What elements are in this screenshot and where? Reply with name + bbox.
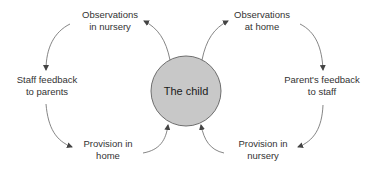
arrow-prov-nursery-to-child bbox=[201, 125, 224, 153]
child-cycle-diagram: The child Observations in nursery Observ… bbox=[0, 0, 372, 170]
node-staff-feedback: Staff feedback to parents bbox=[17, 74, 78, 98]
arrow-child-to-obs-nursery bbox=[144, 21, 170, 60]
node-observations-at-home: Observations at home bbox=[234, 9, 290, 33]
arrow-obs-nursery-to-staff-feedback bbox=[46, 24, 70, 70]
node-line1: Staff feedback bbox=[17, 74, 78, 86]
node-observations-in-nursery: Observations in nursery bbox=[82, 9, 138, 33]
node-line2: to parents bbox=[17, 86, 78, 98]
node-provision-in-home: Provision in home bbox=[83, 138, 132, 162]
node-line2: home bbox=[83, 150, 132, 162]
node-provision-in-nursery: Provision in nursery bbox=[238, 138, 287, 162]
node-line2: at home bbox=[234, 21, 290, 33]
node-line1: Parent's feedback bbox=[284, 74, 360, 86]
arrow-parent-feedback-to-prov-nursery bbox=[298, 105, 323, 147]
arrow-obs-home-to-parent-feedback bbox=[300, 24, 323, 70]
node-line2: in nursery bbox=[82, 21, 138, 33]
arrow-prov-home-to-child bbox=[143, 125, 168, 153]
node-line2: nursery bbox=[238, 150, 287, 162]
arrow-staff-feedback-to-prov-home bbox=[46, 104, 72, 147]
node-line1: Provision in bbox=[83, 138, 132, 150]
arrow-child-to-obs-home bbox=[202, 21, 228, 60]
node-line1: Observations bbox=[234, 9, 290, 21]
node-line1: Provision in bbox=[238, 138, 287, 150]
node-line2: to staff bbox=[284, 86, 360, 98]
node-parent-feedback: Parent's feedback to staff bbox=[284, 74, 360, 98]
node-line1: Observations bbox=[82, 9, 138, 21]
center-label: The child bbox=[164, 85, 209, 97]
